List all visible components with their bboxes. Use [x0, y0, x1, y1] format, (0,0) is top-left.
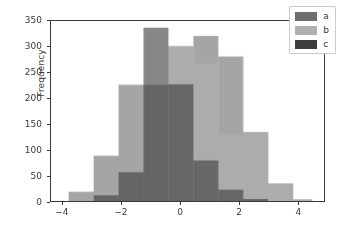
legend-item[interactable]: a [295, 11, 329, 21]
y-axis-label: Frequency [36, 28, 46, 118]
y-tick-label: 50 [0, 171, 42, 181]
y-tick-mark [47, 202, 50, 203]
legend-label: a [323, 12, 329, 21]
x-tick-label: 2 [224, 207, 254, 217]
x-tick-mark [239, 202, 240, 205]
legend-item[interactable]: b [295, 25, 329, 35]
y-tick-label: 0 [0, 197, 42, 207]
x-tick-mark [62, 202, 63, 205]
y-tick-label: 100 [0, 145, 42, 155]
legend-swatch-icon [295, 40, 317, 49]
x-tick-mark [121, 202, 122, 205]
chart-legend: abc [289, 6, 336, 54]
legend-label: b [323, 26, 329, 35]
x-tick-label: 4 [283, 207, 313, 217]
x-tick-label: −4 [47, 207, 77, 217]
x-tick-label: 0 [165, 207, 195, 217]
histogram-canvas [51, 21, 324, 201]
legend-swatch-icon [295, 12, 317, 21]
x-tick-mark [298, 202, 299, 205]
histogram-figure: Frequency 050100150200250300350 −4−2024 … [0, 0, 342, 231]
plot-area [50, 20, 325, 202]
x-tick-mark [180, 202, 181, 205]
legend-label: c [323, 40, 328, 49]
y-tick-label: 350 [0, 15, 42, 25]
legend-swatch-icon [295, 26, 317, 35]
legend-item[interactable]: c [295, 39, 329, 49]
x-tick-label: −2 [106, 207, 136, 217]
y-tick-label: 150 [0, 119, 42, 129]
